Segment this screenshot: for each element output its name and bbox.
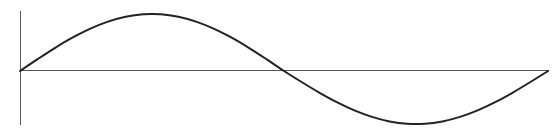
plot-canvas: [0, 0, 558, 129]
sine-wave-figure: [0, 0, 558, 129]
figure-background: [0, 0, 558, 129]
